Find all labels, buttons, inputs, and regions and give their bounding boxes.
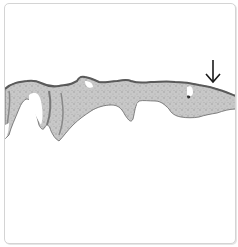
down-arrow-icon	[204, 58, 222, 86]
micrograph-frame: Low-magnification tissue section (graysc…	[4, 3, 236, 244]
tissue-section-image	[5, 4, 235, 243]
tissue-cleft	[137, 103, 139, 109]
